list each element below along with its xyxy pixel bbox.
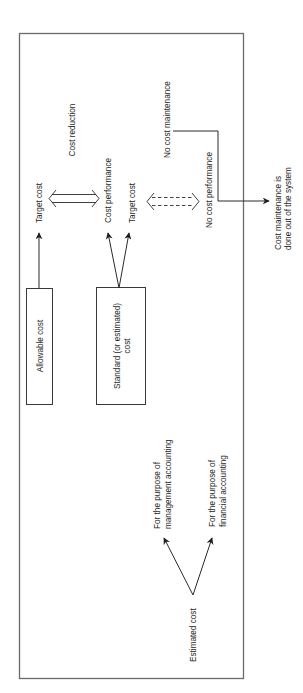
elbow-arrow-maintenance bbox=[173, 131, 269, 201]
standard-cost-box: Standard (or estimated) cost bbox=[97, 288, 146, 405]
financial-purpose-line2: financial accounting bbox=[219, 455, 228, 527]
outside-note-line2: done out of the system bbox=[284, 167, 293, 250]
target-cost-top-label: Target cost bbox=[35, 182, 44, 223]
standard-cost-label-line1: Standard (or estimated) bbox=[113, 303, 122, 389]
cost-management-diagram: Allowable cost Standard (or estimated) c… bbox=[0, 0, 303, 693]
cost-reduction-label: Cost reduction bbox=[68, 103, 77, 156]
no-cost-maintenance-label: No cost maintenance bbox=[163, 81, 172, 158]
dashed-arrow-no-performance bbox=[147, 193, 199, 210]
estimated-cost-label: Estimated cost bbox=[189, 608, 198, 662]
no-cost-performance-label: No cost performance bbox=[205, 152, 214, 228]
outside-note-line1: Cost maintenance is bbox=[274, 176, 283, 250]
standard-cost-label-line2: cost bbox=[123, 338, 132, 354]
management-purpose-line1: For the purpose of bbox=[153, 461, 162, 529]
cost-performance-label: Cost performance bbox=[104, 157, 113, 223]
arrow-standard-to-target-cost bbox=[119, 233, 129, 288]
arrow-standard-to-cost-performance bbox=[108, 233, 119, 288]
target-cost-bottom-label: Target cost bbox=[128, 182, 137, 223]
arrow-estimated-to-financial bbox=[193, 538, 212, 595]
financial-purpose-line1: For the purpose of bbox=[208, 459, 217, 527]
double-arrow-cost-reduction bbox=[49, 190, 99, 207]
allowable-cost-label: Allowable cost bbox=[36, 319, 45, 372]
arrow-estimated-to-management bbox=[164, 538, 193, 595]
management-purpose-line2: management accounting bbox=[164, 439, 173, 529]
allowable-cost-box: Allowable cost bbox=[27, 289, 53, 405]
